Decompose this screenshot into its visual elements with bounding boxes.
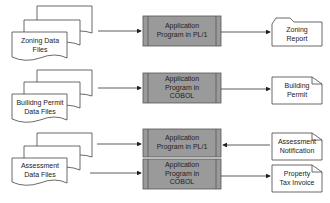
assessment-data-files-label: Assessment Data Files (14, 162, 66, 179)
label-line: Program in (148, 84, 216, 93)
label-line: Permit (272, 91, 322, 100)
zoning-report-label: Zoning Report (272, 26, 322, 43)
building-permit-data-files-label: Builidng Permit Data Files (12, 99, 68, 116)
label-line: Zoning (272, 26, 322, 35)
label-line: Program in PL/1 (148, 143, 216, 152)
program-cobol-building-label: Application Program in COBOL (148, 75, 216, 101)
label-line: COBOL (148, 92, 216, 101)
label-line: Application (148, 161, 216, 170)
label-line: Zoning Data (14, 37, 66, 46)
zoning-data-files-label: Zoning Data Files (14, 37, 66, 54)
label-line: Assessment (14, 162, 66, 171)
program-cobol-tax-label: Application Program in COBOL (148, 161, 216, 187)
building-permit-label: Building Permit (272, 82, 322, 99)
label-line: Report (272, 35, 322, 44)
label-line: Application (148, 22, 216, 31)
label-line: Files (14, 46, 66, 55)
label-line: Application (148, 75, 216, 84)
label-line: Property (272, 170, 322, 179)
property-tax-invoice-label: Property Tax Invoice (272, 170, 322, 187)
label-line: Application (148, 134, 216, 143)
label-line: Building (272, 82, 322, 91)
label-line: COBOL (148, 178, 216, 187)
label-line: Assessment (272, 138, 322, 147)
label-line: Data Files (12, 108, 68, 117)
label-line: Notification (272, 147, 322, 156)
label-line: Program in (148, 170, 216, 179)
assessment-notification-label: Assessment Notification (272, 138, 322, 155)
label-line: Data Files (14, 171, 66, 180)
label-line: Tax Invoice (272, 179, 322, 188)
program-pl1-assessment-label: Application Program in PL/1 (148, 134, 216, 151)
label-line: Builidng Permit (12, 99, 68, 108)
label-line: Program in PL/1 (148, 31, 216, 40)
program-pl1-zoning-label: Application Program in PL/1 (148, 22, 216, 39)
